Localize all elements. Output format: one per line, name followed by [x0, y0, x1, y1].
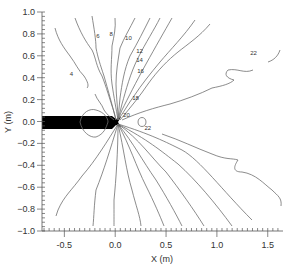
- x-tick-label: -0.5: [57, 240, 73, 250]
- contour-plot: 4681012141618202222 1.00.80.60.40.20.0−0…: [0, 0, 291, 274]
- y-tick-label: −1.0: [17, 226, 35, 236]
- contour-label: 16: [137, 68, 144, 74]
- contour-label: 12: [136, 48, 143, 54]
- y-tick-label: 0.2: [22, 95, 35, 105]
- x-tick-label: 0.0: [109, 240, 122, 250]
- y-tick-label: 0.0: [22, 117, 35, 127]
- contour-label: 14: [136, 57, 143, 63]
- contour-line: [118, 124, 182, 226]
- contour-line: [268, 50, 280, 62]
- y-tick-label: −0.6: [17, 182, 35, 192]
- contour-label: 4: [70, 71, 74, 77]
- y-tick-label: 0.4: [22, 73, 35, 83]
- contour-line: [56, 124, 118, 216]
- contour-line: [162, 134, 281, 206]
- x-axis-title: X (m): [151, 254, 173, 264]
- contour-line: [118, 124, 232, 226]
- y-axis-title: Y (m): [3, 111, 13, 133]
- y-tick-label: −0.2: [17, 138, 35, 148]
- contour-line: [55, 28, 88, 88]
- contour-line: [118, 124, 252, 220]
- contour-label: 8: [109, 31, 113, 37]
- x-tick-label: 0.5: [160, 240, 173, 250]
- y-tick-label: 1.0: [22, 7, 35, 17]
- contour-line: [114, 124, 118, 226]
- contour-label: 22: [144, 125, 151, 131]
- contour-label: 18: [132, 95, 139, 101]
- y-tick-label: −0.4: [17, 160, 35, 170]
- contour-label: 22: [250, 50, 257, 56]
- y-ticks: 1.00.80.60.40.20.0−0.2−0.4−0.6−0.8−1.0: [17, 7, 45, 236]
- y-tick-label: −0.8: [17, 204, 35, 214]
- contour-label: 6: [96, 33, 100, 39]
- x-tick-label: 1.0: [211, 240, 224, 250]
- probe-body: [42, 116, 112, 129]
- x-tick-label: 1.5: [261, 240, 274, 250]
- y-tick-label: 0.6: [22, 51, 35, 61]
- contour-label: 20: [123, 112, 130, 118]
- contour-line: [118, 124, 204, 226]
- contour-label: 10: [125, 35, 132, 41]
- contour-line: [122, 70, 253, 120]
- contour-line: [118, 18, 150, 120]
- contour-line: [118, 18, 172, 120]
- contour-line: [118, 124, 164, 226]
- y-tick-label: 0.8: [22, 29, 35, 39]
